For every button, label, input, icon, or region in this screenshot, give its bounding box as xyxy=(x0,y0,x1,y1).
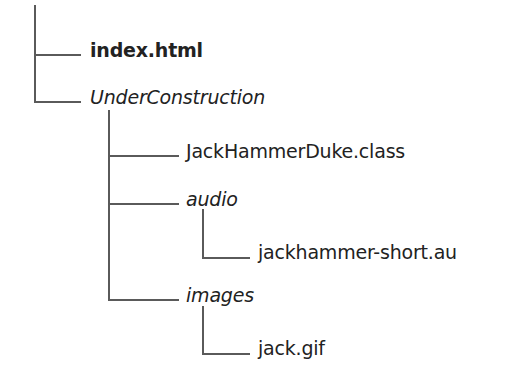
jackhammerduke-connector xyxy=(108,155,179,157)
file-index-html: index.html xyxy=(90,38,203,62)
index-connector xyxy=(34,54,81,56)
folder-underconstruction: UnderConstruction xyxy=(90,85,265,109)
audio-connector xyxy=(108,203,179,205)
underconstruction-connector xyxy=(34,101,81,103)
jackhammer-short-connector xyxy=(202,257,250,259)
jack-gif-connector xyxy=(202,353,250,355)
file-jack-gif: jack.gif xyxy=(258,336,325,360)
underconstruction-children-vertical xyxy=(108,110,110,300)
folder-images: images xyxy=(186,283,254,307)
images-connector xyxy=(108,299,179,301)
folder-audio: audio xyxy=(186,187,238,211)
file-jackhammerduke-class: JackHammerDuke.class xyxy=(186,139,405,163)
audio-children-vertical xyxy=(202,209,204,258)
images-children-vertical xyxy=(202,306,204,354)
file-jackhammer-short-au: jackhammer-short.au xyxy=(258,240,457,264)
directory-tree-diagram: index.html UnderConstruction JackHammerD… xyxy=(0,0,520,380)
